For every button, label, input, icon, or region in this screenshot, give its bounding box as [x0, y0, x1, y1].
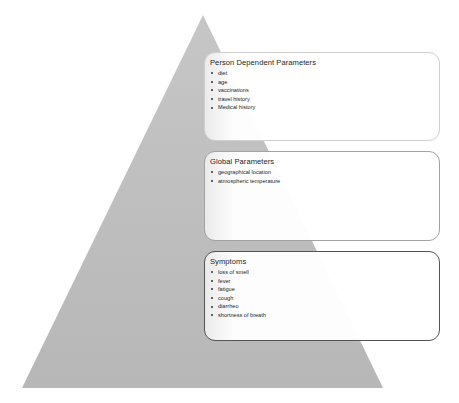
box-title: Global Parameters [210, 157, 439, 167]
bullet-icon [211, 280, 213, 282]
bullet-icon [211, 89, 213, 91]
bullet-icon [211, 180, 213, 182]
bullet-icon [211, 81, 213, 83]
list-item: diarrheo [210, 302, 439, 311]
bullet-icon [211, 297, 213, 299]
list-item: loss of smell [210, 268, 439, 277]
list-item: diet [210, 69, 439, 78]
person-dependent-parameters-box: Person Dependent Parameters diet age vac… [204, 52, 440, 141]
list-item: travel history [210, 95, 439, 104]
symptoms-box: Symptoms loss of smell fever fatigue cou… [204, 251, 440, 341]
bullet-icon [211, 271, 213, 273]
bullet-icon [211, 288, 213, 290]
bullet-list: diet age vaccinations travel history Med… [210, 69, 439, 112]
list-item: cough [210, 294, 439, 303]
bullet-icon [211, 98, 213, 100]
list-item: age [210, 78, 439, 87]
bullet-icon [211, 107, 213, 109]
list-item: fatigue [210, 285, 439, 294]
list-item: shortness of breath [210, 311, 439, 320]
box-title: Symptoms [210, 257, 439, 267]
bullet-icon [211, 314, 213, 316]
bullet-icon [211, 171, 213, 173]
list-item: Medical history [210, 103, 439, 112]
bullet-icon [211, 306, 213, 308]
list-item: fever [210, 277, 439, 286]
global-parameters-box: Global Parameters geographical location … [204, 151, 440, 241]
bullet-list: loss of smell fever fatigue cough diarrh… [210, 268, 439, 320]
bullet-list: geographical location atmospheric temper… [210, 168, 439, 185]
bullet-icon [211, 72, 213, 74]
list-item: vaccinations [210, 86, 439, 95]
list-item: atmospheric temperature [210, 177, 439, 186]
box-title: Person Dependent Parameters [210, 58, 439, 68]
list-item: geographical location [210, 168, 439, 177]
